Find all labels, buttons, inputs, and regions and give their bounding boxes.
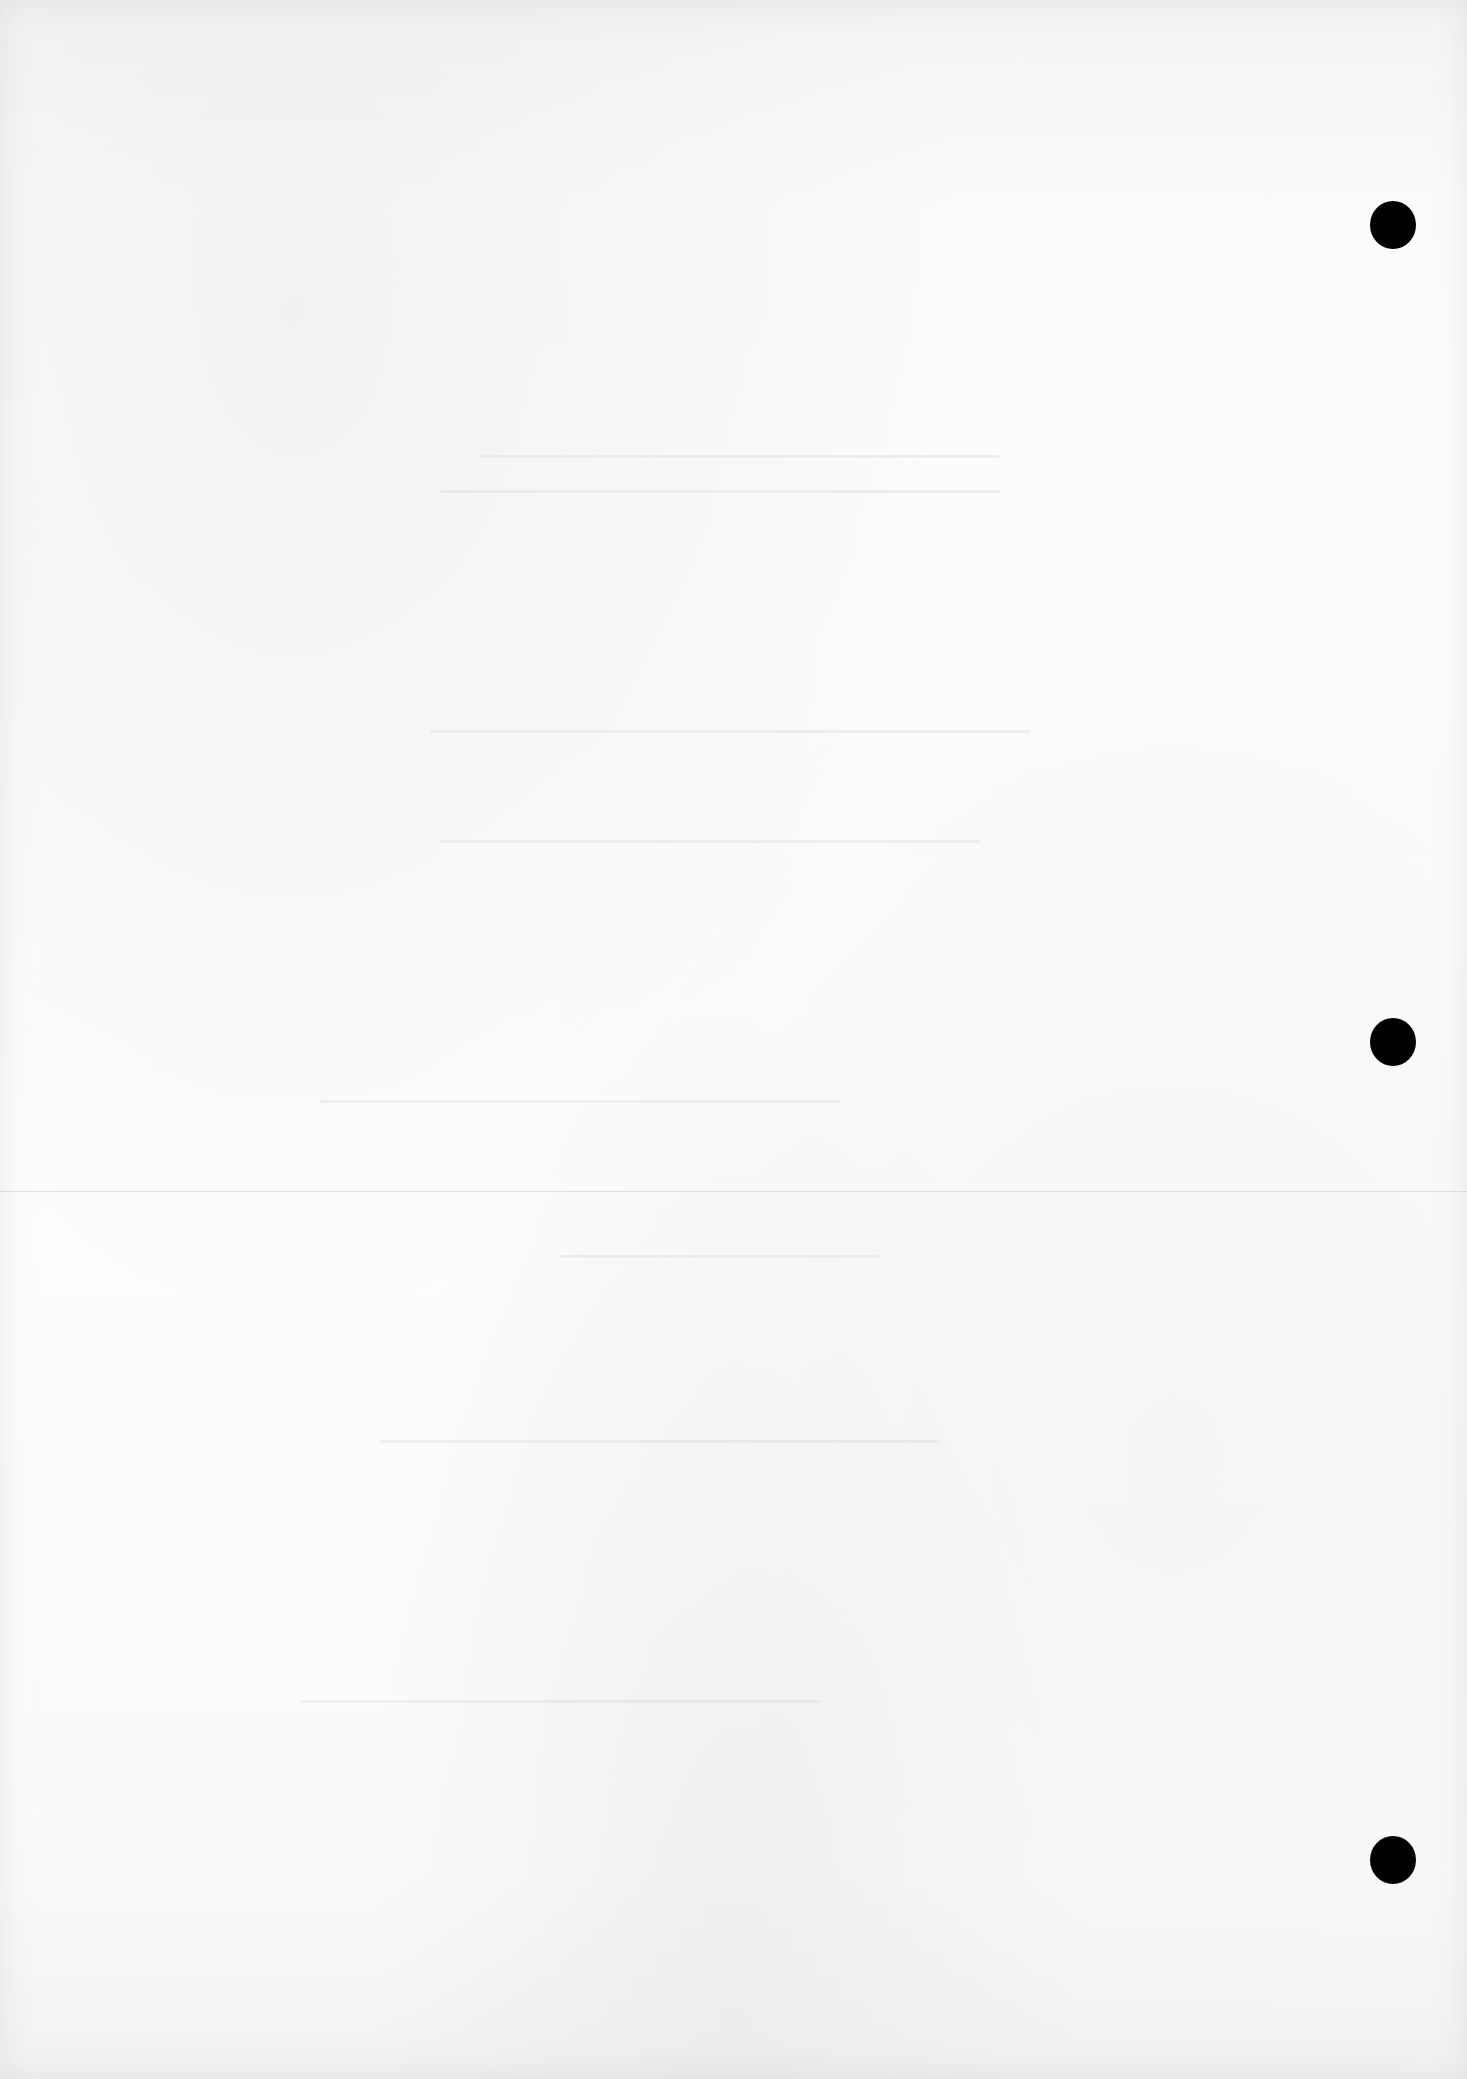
show-through-mark: [440, 490, 1000, 493]
show-through-mark: [320, 1100, 840, 1103]
paper-fold-line: [0, 1191, 1467, 1192]
show-through-mark: [480, 455, 1000, 458]
punch-hole-bottom: [1370, 1836, 1416, 1884]
blank-paper-page: [0, 0, 1467, 2079]
punch-hole-top: [1370, 201, 1416, 249]
show-through-mark: [560, 1255, 880, 1258]
show-through-mark: [380, 1440, 940, 1443]
show-through-mark: [300, 1700, 820, 1703]
page-edge-shading: [0, 0, 1467, 2079]
punch-hole-middle: [1370, 1018, 1416, 1066]
show-through-mark: [440, 840, 980, 843]
show-through-mark: [430, 730, 1030, 733]
